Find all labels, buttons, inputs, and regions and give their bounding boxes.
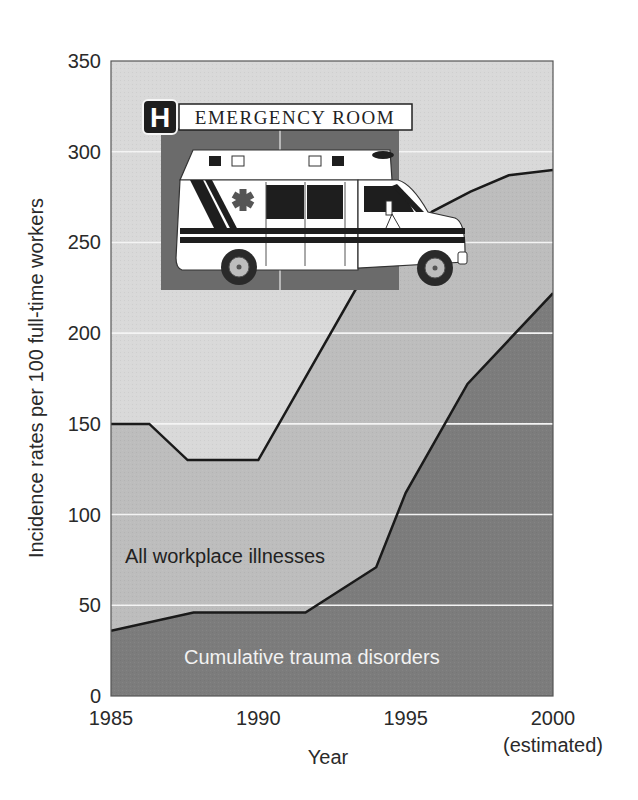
front-wheel bbox=[417, 250, 453, 286]
rear-wheel bbox=[221, 249, 257, 285]
x-tick-label: 1995 bbox=[383, 707, 428, 729]
x-tick-label: 2000 bbox=[531, 707, 576, 729]
y-tick-label: 300 bbox=[68, 141, 101, 163]
y-tick-label: 150 bbox=[68, 413, 101, 435]
x-tick-label: 1990 bbox=[236, 707, 281, 729]
y-tick-label: 350 bbox=[68, 50, 101, 72]
x-axis-title: Year bbox=[308, 746, 349, 768]
y-tick-label: 250 bbox=[68, 231, 101, 253]
incidence-rate-chart: H EMERGENCY ROOM bbox=[0, 0, 638, 800]
label-all-workplace-illnesses: All workplace illnesses bbox=[125, 545, 325, 567]
x-axis-ticks: 1985199019952000 bbox=[89, 707, 576, 729]
y-tick-label: 50 bbox=[79, 594, 101, 616]
hospital-h-icon: H bbox=[150, 102, 170, 133]
label-cumulative-trauma-disorders: Cumulative trauma disorders bbox=[184, 646, 440, 668]
y-tick-label: 200 bbox=[68, 322, 101, 344]
x-tick-note: (estimated) bbox=[503, 734, 603, 756]
y-axis-title: Incidence rates per 100 full-time worker… bbox=[25, 198, 47, 558]
y-tick-label: 0 bbox=[90, 685, 101, 707]
y-axis-ticks: 050100150200250300350 bbox=[68, 50, 101, 707]
emergency-room-text: EMERGENCY ROOM bbox=[195, 107, 395, 128]
x-tick-label: 1985 bbox=[89, 707, 134, 729]
y-tick-label: 100 bbox=[68, 504, 101, 526]
